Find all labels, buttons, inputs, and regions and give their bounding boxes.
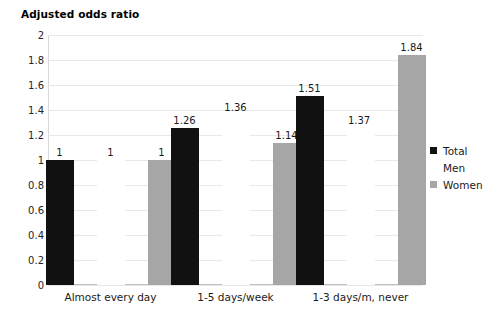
legend-swatch-icon (430, 147, 437, 154)
bar-total-2[interactable] (296, 96, 324, 285)
legend-swatch-icon (430, 164, 437, 171)
bar-value-label: 1.51 (298, 83, 320, 94)
y-axis-tick-label: 1.8 (2, 55, 44, 66)
bar-group: 111 (48, 35, 173, 285)
bar-value-label: 1.37 (348, 115, 370, 126)
legend-item-total[interactable]: Total (430, 142, 480, 159)
legend-item-label: Men (443, 162, 465, 174)
bar-groups: 1111.261.361.141.511.371.84 (48, 35, 423, 285)
y-axis-tick-label: 1.6 (2, 80, 44, 91)
bar-men-1[interactable] (222, 115, 250, 285)
x-axis-tick-label: Almost every day (65, 291, 157, 303)
bar-value-label: 1.84 (400, 42, 422, 53)
bar-value-label: 1.36 (224, 102, 246, 113)
y-axis: 21.81.61.41.210.80.60.40.20 (0, 35, 44, 285)
y-axis-tick-label: 2 (2, 30, 44, 41)
y-axis-tick-label: 0.4 (2, 230, 44, 241)
legend-swatch-icon (430, 181, 437, 188)
legend-item-women[interactable]: Women (430, 176, 480, 193)
x-axis-tick-label: 1-3 days/m, never (313, 291, 409, 303)
legend-item-men[interactable]: Men (430, 159, 480, 176)
gridline (48, 285, 423, 286)
bar-men-2[interactable] (347, 114, 375, 285)
bar-value-label: 1 (56, 147, 62, 158)
legend-item-label: Women (443, 179, 483, 191)
y-axis-tick-label: 0 (2, 280, 44, 291)
bar-men-0[interactable] (97, 160, 125, 285)
bar-value-label: 1 (107, 147, 113, 158)
x-axis-labels: Almost every day1-5 days/week1-3 days/m,… (48, 291, 423, 311)
chart-legend: TotalMenWomen (430, 142, 480, 193)
y-axis-tick-label: 1.2 (2, 130, 44, 141)
bar-group: 1.511.371.84 (298, 35, 423, 285)
bar-total-0[interactable] (46, 160, 74, 285)
bar-total-1[interactable] (171, 128, 199, 286)
y-axis-tick-label: 0.6 (2, 205, 44, 216)
chart-title: Adjusted odds ratio (21, 8, 139, 20)
x-axis-tick-label: 1-5 days/week (197, 291, 273, 303)
y-axis-tick-label: 1 (2, 155, 44, 166)
bar-value-label: 1.14 (275, 130, 297, 141)
bar-value-label: 1 (158, 147, 164, 158)
y-axis-tick-label: 0.8 (2, 180, 44, 191)
bar-group: 1.261.361.14 (173, 35, 298, 285)
legend-item-label: Total (443, 145, 468, 157)
y-axis-tick-label: 0.2 (2, 255, 44, 266)
bar-value-label: 1.26 (173, 115, 195, 126)
bar-women-2[interactable] (398, 55, 426, 285)
y-axis-tick-label: 1.4 (2, 105, 44, 116)
